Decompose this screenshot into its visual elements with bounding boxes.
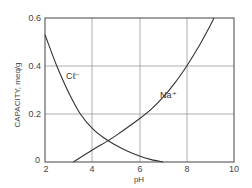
plot-frame: [45, 18, 234, 162]
x-tick: 8: [184, 164, 189, 174]
cl-label: Cℓ⁻: [66, 71, 80, 81]
x-tick: 6: [137, 164, 142, 174]
x-ticks: 2 4 6 8 10: [43, 164, 239, 174]
x-axis-label: pH: [134, 175, 144, 184]
na-label: Na⁺: [160, 90, 177, 100]
y-axis-label: CAPACITY, meq/g: [13, 62, 22, 127]
chart: 0.6 0.4 0.2 0 2 4 6 8 10 pH CAPACITY, me…: [0, 0, 252, 188]
x-tick: 2: [43, 164, 48, 174]
x-tick: 10: [229, 164, 239, 174]
na-curve: [73, 18, 214, 162]
y-tick: 0: [35, 155, 40, 165]
y-tick: 0.4: [28, 61, 41, 71]
y-ticks: 0.6 0.4 0.2 0: [28, 13, 41, 165]
x-tick: 4: [89, 164, 94, 174]
grid: [45, 18, 234, 162]
y-tick: 0.6: [28, 13, 41, 23]
y-tick: 0.2: [28, 109, 41, 119]
